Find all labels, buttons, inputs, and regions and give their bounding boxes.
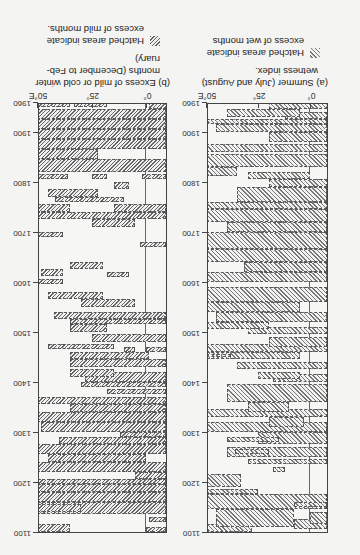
hatched-region (207, 232, 327, 250)
hatched-region (269, 132, 327, 142)
hatched-region (235, 450, 268, 455)
year-tick-label: 1300 (182, 429, 200, 438)
hatched-region (38, 103, 70, 107)
year-tick (202, 282, 207, 283)
hatched-region (258, 372, 300, 380)
hatched-region (70, 405, 166, 413)
hatched-region (48, 345, 114, 350)
hatched-region (120, 432, 166, 437)
longitude-tick (206, 103, 207, 108)
hatched-region (227, 110, 300, 118)
hatched-region (269, 337, 327, 347)
hatched-region (107, 390, 166, 395)
hatched-region (140, 242, 166, 247)
hatched-region (38, 212, 166, 220)
year-tick-label: 1200 (13, 479, 31, 488)
year-tick (202, 332, 207, 333)
hatched-region (38, 205, 70, 213)
hatched-region (81, 300, 136, 308)
hatched-region (294, 502, 327, 507)
hatched-region (207, 202, 327, 210)
hatched-region (207, 287, 327, 302)
year-tick (33, 382, 38, 383)
hatched-region (244, 262, 327, 272)
year-tick (202, 382, 207, 383)
panel-b-legend-swatch (150, 36, 160, 46)
year-tick (202, 532, 207, 533)
panel-a-summer-wetness (207, 103, 328, 533)
year-tick-label: 1400 (182, 379, 200, 388)
hatched-region (216, 510, 293, 528)
hatched-region (70, 370, 114, 378)
hatched-region (74, 103, 107, 107)
hatched-region (248, 460, 327, 465)
hatched-region (207, 322, 269, 330)
year-tick (33, 232, 38, 233)
hatched-region (38, 280, 63, 285)
hatched-region (269, 103, 327, 110)
panel-b-winter-mildness (38, 103, 167, 533)
hatched-region (70, 352, 149, 360)
hatched-region (41, 270, 63, 277)
year-tick (202, 182, 207, 183)
hatched-region (70, 360, 166, 368)
longitude-tick (310, 103, 311, 108)
year-tick (33, 332, 38, 333)
hatched-region (207, 422, 327, 432)
hatched-region (55, 197, 125, 202)
hatched-region (207, 272, 327, 282)
hatched-region (207, 210, 327, 223)
panel-b-caption-line2: months (December to Feb- (35, 65, 170, 77)
hatched-region (38, 110, 166, 120)
hatched-region (207, 490, 258, 495)
year-tick-label: 1300 (13, 429, 31, 438)
panel-a-legend-line2: excess of wet months (207, 35, 304, 47)
hatched-region (41, 422, 166, 432)
hatched-region (135, 472, 166, 480)
hatched-region (149, 103, 166, 110)
longitude-tick-label: 50°E (29, 91, 48, 101)
longitude-tick (146, 103, 147, 108)
year-tick-label: 1500 (182, 329, 200, 338)
panel-a-caption-line1: (a) Summer (July and August) (202, 77, 328, 89)
longitude-tick-label: 50°E (198, 91, 217, 101)
hatched-region (38, 412, 166, 422)
hatched-region (92, 175, 107, 180)
year-tick-label: 1700 (13, 229, 31, 238)
hatched-region (70, 320, 166, 325)
hatched-region (59, 437, 166, 445)
year-tick-label: 1800 (182, 179, 200, 188)
hatched-region (207, 145, 327, 153)
hatched-region (38, 492, 166, 502)
panel-a-legend-line1: Hatched areas indicate (207, 47, 304, 59)
hatched-region (269, 417, 304, 427)
year-tick (33, 532, 38, 533)
hatched-region (227, 437, 279, 442)
hatched-region (227, 385, 327, 403)
hatched-region (38, 480, 166, 485)
year-tick (33, 132, 38, 133)
hatched-region (273, 467, 286, 472)
year-tick-label: 1100 (183, 529, 200, 538)
year-tick (202, 132, 207, 133)
hatched-region (207, 155, 327, 168)
hatched-region (269, 180, 327, 188)
hatched-region (48, 190, 98, 198)
year-tick (33, 482, 38, 483)
longitude-tick (92, 103, 93, 108)
hatched-region (248, 402, 290, 412)
hatched-region (207, 167, 237, 176)
panel-b-caption-line1: (b) Excess of mild or cold winter (35, 77, 170, 89)
hatched-region (38, 525, 70, 533)
hatched-region (146, 527, 166, 532)
panel-a-caption-line2: wetness index. (202, 65, 328, 77)
year-tick-label: 1100 (14, 529, 31, 538)
hatched-region (70, 325, 107, 333)
year-tick (202, 482, 207, 483)
figure-rotated: (a) Summer (July and August) wetness ind… (0, 0, 360, 555)
panel-b-legend: Hatched areas indicate excess of mild mo… (47, 23, 144, 47)
panel-b-caption-line3: ruary) (35, 53, 170, 65)
year-tick (33, 182, 38, 183)
hatched-region (207, 302, 300, 312)
hatched-region (248, 172, 311, 180)
